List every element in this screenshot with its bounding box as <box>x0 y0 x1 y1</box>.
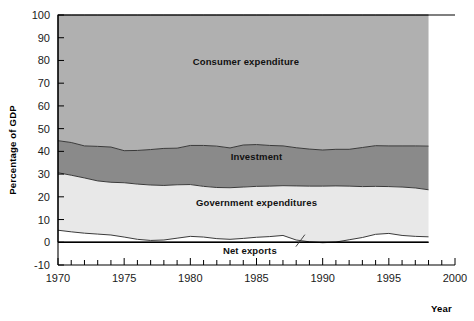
y-tick-label: 50 <box>38 123 50 135</box>
y-tick-label: 100 <box>32 9 50 21</box>
chart-canvas: 1009080706050403020100-10 19701975198019… <box>0 0 474 321</box>
y-tick-label: 20 <box>38 191 50 203</box>
x-tick-label: 1975 <box>112 272 136 284</box>
x-tick-label: 1990 <box>310 272 334 284</box>
band-label: Government expenditures <box>196 197 317 208</box>
y-tick-label: 90 <box>38 32 50 44</box>
plot-bands <box>58 15 429 243</box>
band-label: Investment <box>231 151 283 162</box>
y-tick-label: 70 <box>38 77 50 89</box>
band-label: Net exports <box>223 245 277 256</box>
y-tick-label: 10 <box>38 214 50 226</box>
y-tick-label: -10 <box>34 259 50 271</box>
y-tick-label: 60 <box>38 100 50 112</box>
x-tick-label: 2000 <box>443 272 467 284</box>
x-tick-label: 1985 <box>244 272 268 284</box>
x-tick-label: 1995 <box>377 272 401 284</box>
x-axis-title: Year <box>431 303 452 314</box>
x-tick-label: 1980 <box>178 272 202 284</box>
x-axis: 1970197519801985199019952000 <box>46 258 467 284</box>
y-tick-label: 30 <box>38 168 50 180</box>
y-tick-label: 40 <box>38 145 50 157</box>
y-tick-label: 80 <box>38 54 50 66</box>
x-tick-label: 1970 <box>46 272 70 284</box>
band-label: Consumer expenditure <box>193 56 299 67</box>
stacked-area-chart: 1009080706050403020100-10 19701975198019… <box>0 0 474 321</box>
y-axis-title: Percentage of GDP <box>7 105 18 195</box>
area-band-consumer-expenditure <box>58 15 429 151</box>
y-tick-label: 0 <box>44 236 50 248</box>
